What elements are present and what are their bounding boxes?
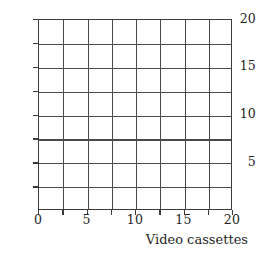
gridline-horizontal bbox=[39, 92, 231, 93]
xtick-label-15: 15 bbox=[164, 214, 204, 227]
xtick-mark-2.5 bbox=[62, 210, 63, 215]
ytick-mark-2.5 bbox=[33, 186, 38, 187]
gridline-vertical bbox=[112, 20, 113, 209]
gridline-vertical bbox=[88, 20, 89, 209]
gridline-horizontal bbox=[39, 44, 231, 45]
ytick-mark-20 bbox=[33, 19, 38, 20]
gridline-vertical bbox=[160, 20, 161, 209]
ytick-mark-17.5 bbox=[33, 43, 38, 44]
chart-container: 20 15 10 5 0 5 10 15 20 Video cassettes bbox=[0, 0, 256, 264]
gridline-horizontal bbox=[39, 68, 231, 69]
ytick-mark-12.5 bbox=[33, 91, 38, 92]
xtick-label-10: 10 bbox=[115, 214, 155, 227]
xtick-mark-12.5 bbox=[159, 210, 160, 215]
gridline-vertical bbox=[185, 20, 186, 209]
xtick-mark-17.5 bbox=[208, 210, 209, 215]
plot-area bbox=[38, 19, 232, 210]
gridline-horizontal bbox=[39, 187, 231, 188]
gridline-horizontal bbox=[39, 116, 231, 117]
ytick-label-5: 5 bbox=[226, 156, 256, 169]
gridline-horizontal bbox=[39, 139, 231, 140]
gridline-horizontal bbox=[39, 163, 231, 164]
gridline-vertical bbox=[209, 20, 210, 209]
ytick-mark-5 bbox=[33, 162, 38, 163]
ytick-label-10: 10 bbox=[226, 108, 256, 121]
gridline-vertical bbox=[63, 20, 64, 209]
gridline-vertical bbox=[136, 20, 137, 209]
xtick-label-0: 0 bbox=[18, 214, 58, 227]
ytick-label-20: 20 bbox=[226, 13, 256, 26]
xtick-label-5: 5 bbox=[67, 214, 107, 227]
x-axis-title: Video cassettes bbox=[0, 232, 248, 247]
ytick-label-15: 15 bbox=[226, 60, 256, 73]
xtick-label-20: 20 bbox=[212, 214, 252, 227]
ytick-mark-15 bbox=[33, 67, 38, 68]
ytick-mark-7.5 bbox=[33, 138, 38, 139]
xtick-mark-7.5 bbox=[111, 210, 112, 215]
ytick-mark-10 bbox=[33, 115, 38, 116]
